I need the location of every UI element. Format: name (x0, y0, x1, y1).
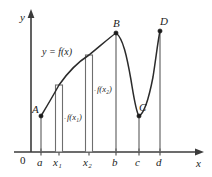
point-marker-b (114, 31, 118, 35)
ordinate-strip-x2 (86, 55, 93, 152)
point-label-c: C (139, 102, 146, 113)
x-axis-group (14, 149, 204, 156)
point-marker-d (158, 29, 162, 33)
point-label-b: B (113, 18, 120, 29)
point-marker-c (137, 114, 141, 118)
value-label-fx1: f(x₁) (67, 113, 82, 122)
point-label-a: A (32, 104, 39, 115)
y-axis-arrow-icon (28, 9, 35, 18)
point-label-d: D (160, 16, 168, 27)
x-axis-arrow-icon (195, 149, 204, 156)
curve-equation-label: y = f(x) (42, 47, 72, 57)
y-axis-group (28, 9, 35, 152)
x-tick-label-d: d (156, 157, 162, 168)
origin-label: 0 (20, 155, 26, 166)
y-axis-label: y (20, 12, 25, 23)
x-tick-label-x1: x₁ (53, 157, 62, 168)
ordinate-strip-x1 (56, 85, 63, 152)
point-marker-a (39, 114, 43, 118)
x-tick-label-c: c (135, 157, 140, 168)
ordinate-strips-group (56, 55, 93, 152)
figure-container: y x 0 y = f(x) a x₁ x₂ b c d A B C D f(x… (0, 0, 212, 177)
x-tick-label-a: a (37, 157, 43, 168)
x-tick-label-b: b (112, 157, 118, 168)
x-tick-label-x2: x₂ (83, 157, 92, 168)
value-label-fx2: f(x₂) (97, 85, 112, 94)
x-axis-label: x (196, 158, 201, 169)
